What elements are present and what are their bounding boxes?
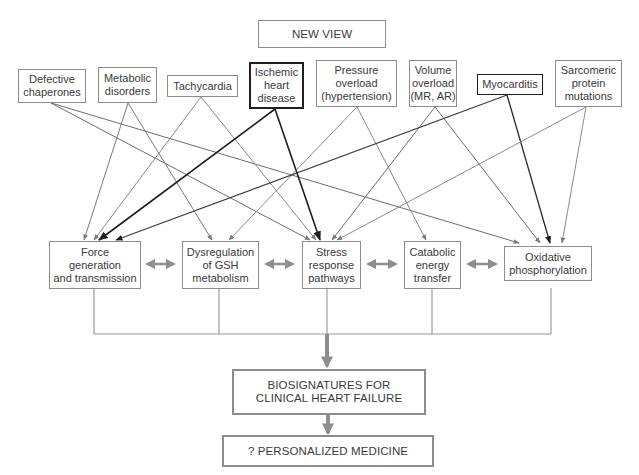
edge-pressure-overload-to-gsh-dysregulation xyxy=(229,107,357,240)
cause-label: Pressure overload (hypertension) xyxy=(321,64,391,103)
cause-myocarditis: Myocarditis xyxy=(477,74,543,95)
edge-ischemic-heart-disease-to-stress-response xyxy=(275,109,320,240)
cause-ischemic-heart-disease: Ischemic heart disease xyxy=(249,62,304,109)
edge-pressure-overload-to-catabolic-energy xyxy=(357,107,426,240)
cause-label: Ischemic heart disease xyxy=(255,66,298,105)
cause-label: Sarcomeric protein mutations xyxy=(561,64,617,103)
convergence-bracket xyxy=(94,288,551,334)
pathway-catabolic-energy: Catabolic energy transfer xyxy=(404,241,461,289)
pathway-label: Catabolic energy transfer xyxy=(410,246,456,285)
new-view-title-box: NEW VIEW xyxy=(258,20,386,48)
cause-label: Metabolic disorders xyxy=(104,72,151,98)
cause-tachycardia: Tachycardia xyxy=(167,75,238,97)
pathway-label: Oxidative phosphorylation xyxy=(509,251,587,277)
edge-myocarditis-to-oxidative-phosphorylation xyxy=(507,95,550,243)
pathway-label: Force generation and transmission xyxy=(53,246,136,285)
pathway-stress-response: Stress response pathways xyxy=(302,241,361,289)
cause-defective-chaperones: Defective chaperones xyxy=(18,69,86,103)
cause-pressure-overload: Pressure overload (hypertension) xyxy=(316,60,397,107)
cause-label: Volume overload (MR, AR) xyxy=(410,64,455,103)
pathway-oxidative-phosphorylation: Oxidative phosphorylation xyxy=(504,246,592,281)
cause-label: Tachycardia xyxy=(173,80,232,93)
edge-defective-chaperones-to-stress-response xyxy=(51,103,310,240)
pathway-force-generation: Force generation and transmission xyxy=(49,241,141,289)
biosignatures-box: BIOSIGNATURES FOR CLINICAL HEART FAILURE xyxy=(232,369,426,415)
cause-metabolic-disorders: Metabolic disorders xyxy=(98,67,157,103)
personalized-medicine-label: ? PERSONALIZED MEDICINE xyxy=(248,445,408,458)
new-view-title: NEW VIEW xyxy=(292,28,352,41)
biosignatures-label: BIOSIGNATURES FOR CLINICAL HEART FAILURE xyxy=(256,379,402,405)
cause-sarcomeric-protein-mutations: Sarcomeric protein mutations xyxy=(555,60,622,107)
edge-myocarditis-to-force-generation xyxy=(116,95,507,240)
pathway-label: Stress response pathways xyxy=(308,246,354,285)
edge-sarcomeric-protein-mutations-to-stress-response xyxy=(337,107,586,240)
pathway-gsh-dysregulation: Dysregulation of GSH metabolism xyxy=(182,241,259,289)
edge-tachycardia-to-force-generation xyxy=(94,97,201,240)
personalized-medicine-box: ? PERSONALIZED MEDICINE xyxy=(222,435,434,467)
pathway-label: Dysregulation of GSH metabolism xyxy=(187,246,254,285)
cause-label: Defective chaperones xyxy=(23,73,81,99)
cause-volume-overload: Volume overload (MR, AR) xyxy=(409,60,457,107)
cause-label: Myocarditis xyxy=(482,78,538,91)
edge-sarcomeric-protein-mutations-to-oxidative-phosphorylation xyxy=(562,107,586,243)
edge-tachycardia-to-stress-response xyxy=(201,97,316,240)
